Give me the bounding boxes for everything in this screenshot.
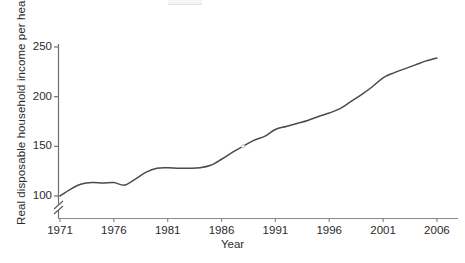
x-tick-label-1981: 1981 xyxy=(146,224,190,236)
x-tick-label-1976: 1976 xyxy=(92,224,136,236)
y-tick-label-200: 200 xyxy=(18,90,52,102)
y-tick-marks xyxy=(54,47,59,196)
x-tick-label-1991: 1991 xyxy=(253,224,297,236)
y-tick-label-150: 150 xyxy=(18,139,52,151)
data-series-line xyxy=(60,58,437,196)
series-gap-marker xyxy=(241,145,244,148)
y-tick-label-250: 250 xyxy=(18,40,52,52)
x-tick-label-2006: 2006 xyxy=(415,224,459,236)
x-tick-label-2001: 2001 xyxy=(361,224,405,236)
y-tick-label-100: 100 xyxy=(18,189,52,201)
axis-spines xyxy=(59,44,459,219)
x-tick-label-1971: 1971 xyxy=(38,224,82,236)
x-tick-label-1986: 1986 xyxy=(200,224,244,236)
chart-figure: Real disposable household income per hea… xyxy=(0,0,465,263)
x-tick-label-1996: 1996 xyxy=(307,224,351,236)
